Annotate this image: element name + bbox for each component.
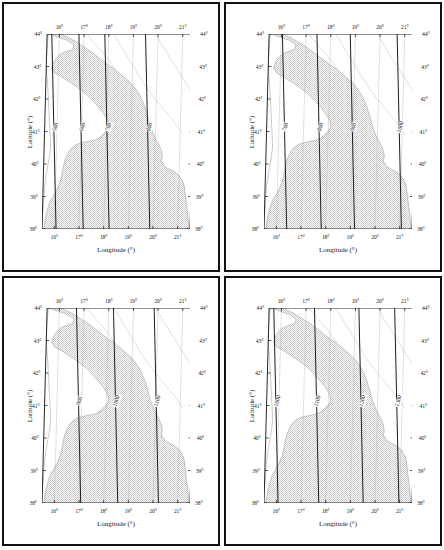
y-tick-label-right: 43° (421, 64, 429, 70)
x-tick-label-bottom: 18° (322, 508, 330, 514)
map-svg (42, 34, 190, 229)
x-tick-label-bottom: 17° (75, 508, 83, 514)
figure-four-panel-contour-maps: Longitude (°) Latitude (°) 16°16°17°17°1… (0, 0, 444, 550)
x-tick-label-bottom: 16° (51, 508, 59, 514)
y-tick-label-left: 38° (251, 500, 259, 506)
y-tick-label-left: 43° (256, 338, 264, 344)
x-tick-label-bottom: 21° (174, 508, 182, 514)
sea-shading-south (45, 127, 189, 229)
x-tick-label-top: 16° (56, 24, 64, 30)
y-tick-label-right: 44° (200, 31, 208, 37)
political-border (156, 34, 190, 93)
x-tick-label-top: 19° (352, 298, 360, 304)
x-tick-label-top: 21° (401, 24, 409, 30)
y-tick-label-right: 41° (198, 129, 206, 135)
y-tick-label-right: 38° (417, 226, 425, 232)
x-tick-label-bottom: 20° (149, 508, 157, 514)
y-tick-label-left: 38° (251, 226, 259, 232)
x-tick-label-bottom: 16° (51, 234, 59, 240)
x-tick-label-top: 18° (105, 24, 113, 30)
x-tick-label-bottom: 17° (75, 234, 83, 240)
x-axis-title: Longitude (°) (97, 520, 135, 528)
y-tick-label-right: 42° (420, 370, 428, 376)
x-tick-label-bottom: 19° (125, 234, 133, 240)
plot-area-panel-1: Longitude (°) Latitude (°) 16°16°17°17°1… (42, 34, 190, 229)
y-tick-label-right: 40° (197, 435, 205, 441)
y-tick-label-left: 41° (32, 403, 40, 409)
y-tick-label-right: 40° (419, 161, 427, 167)
x-tick-label-top: 20° (154, 298, 162, 304)
x-tick-label-bottom: 18° (100, 508, 108, 514)
x-tick-label-bottom: 20° (371, 234, 379, 240)
x-tick-label-top: 20° (376, 24, 384, 30)
x-tick-label-bottom: 21° (396, 508, 404, 514)
y-tick-label-right: 38° (195, 500, 203, 506)
map-panel-4 (264, 308, 412, 503)
x-tick-label-top: 20° (154, 24, 162, 30)
x-tick-label-top: 16° (56, 298, 64, 304)
y-tick-label-left: 39° (252, 194, 260, 200)
y-tick-label-right: 43° (199, 64, 207, 70)
political-border (156, 308, 190, 367)
y-tick-label-right: 41° (198, 403, 206, 409)
plot-area-panel-2: Longitude (°) Latitude (°) 16°16°17°17°1… (264, 34, 412, 229)
y-tick-label-left: 41° (254, 403, 262, 409)
x-tick-label-top: 19° (130, 24, 138, 30)
plot-area-panel-4: Longitude (°) Latitude (°) 16°16°17°17°1… (264, 308, 412, 503)
x-axis-title: Longitude (°) (319, 246, 357, 254)
x-axis-title: Longitude (°) (319, 520, 357, 528)
y-tick-label-left: 41° (32, 129, 40, 135)
y-tick-label-left: 44° (35, 305, 43, 311)
x-tick-label-bottom: 20° (149, 234, 157, 240)
x-tick-label-top: 21° (401, 298, 409, 304)
x-tick-label-top: 16° (278, 298, 286, 304)
x-tick-label-top: 18° (327, 298, 335, 304)
x-tick-label-bottom: 18° (322, 234, 330, 240)
x-tick-label-bottom: 20° (371, 508, 379, 514)
y-tick-label-left: 41° (254, 129, 262, 135)
y-tick-label-right: 41° (420, 129, 428, 135)
y-tick-label-left: 38° (29, 500, 37, 506)
y-tick-label-left: 40° (31, 161, 39, 167)
x-tick-label-top: 21° (179, 298, 187, 304)
y-tick-label-left: 44° (35, 31, 43, 37)
y-tick-label-left: 43° (256, 64, 264, 70)
y-tick-label-right: 38° (417, 500, 425, 506)
x-tick-label-bottom: 19° (347, 508, 355, 514)
x-tick-label-bottom: 16° (273, 234, 281, 240)
y-tick-label-right: 42° (198, 370, 206, 376)
y-tick-label-left: 38° (29, 226, 37, 232)
x-axis-title: Longitude (°) (97, 246, 135, 254)
y-tick-label-left: 39° (30, 194, 38, 200)
y-tick-label-right: 41° (420, 403, 428, 409)
y-tick-label-right: 39° (418, 468, 426, 474)
x-tick-label-bottom: 19° (125, 508, 133, 514)
x-tick-label-top: 18° (327, 24, 335, 30)
x-tick-label-bottom: 17° (297, 508, 305, 514)
y-tick-label-right: 39° (418, 194, 426, 200)
x-tick-label-top: 17° (80, 24, 88, 30)
y-tick-label-right: 40° (197, 161, 205, 167)
y-tick-label-left: 40° (253, 161, 261, 167)
x-tick-label-top: 18° (105, 298, 113, 304)
panel-top-left: Longitude (°) Latitude (°) 16°16°17°17°1… (2, 2, 220, 272)
x-tick-label-bottom: 18° (100, 234, 108, 240)
x-tick-label-top: 17° (302, 298, 310, 304)
y-tick-label-left: 40° (31, 435, 39, 441)
map-panel-1 (42, 34, 190, 229)
x-tick-label-top: 16° (278, 24, 286, 30)
y-tick-label-left: 43° (34, 338, 42, 344)
y-tick-label-right: 43° (199, 338, 207, 344)
x-tick-label-bottom: 16° (273, 508, 281, 514)
x-tick-label-top: 17° (302, 24, 310, 30)
y-tick-label-right: 44° (200, 305, 208, 311)
x-tick-label-top: 20° (376, 298, 384, 304)
y-tick-label-right: 39° (196, 468, 204, 474)
political-border (378, 34, 412, 93)
panel-top-right: Longitude (°) Latitude (°) 16°16°17°17°1… (224, 2, 442, 272)
y-tick-label-left: 42° (255, 370, 263, 376)
y-tick-label-left: 43° (34, 64, 42, 70)
y-tick-label-left: 39° (252, 468, 260, 474)
sea-shading-south (267, 401, 411, 503)
map-svg (264, 308, 412, 503)
